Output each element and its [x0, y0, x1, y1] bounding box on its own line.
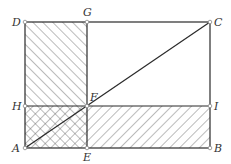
point-c [208, 20, 212, 24]
label-d: D [11, 16, 21, 29]
point-f [85, 104, 89, 108]
point-b [208, 146, 212, 150]
hatch-region-fibe [25, 106, 210, 148]
point-e [85, 146, 89, 150]
label-f: F [89, 91, 98, 104]
label-g: G [83, 6, 92, 19]
geometry-diagram: D G C H F I A E B [0, 0, 231, 164]
label-i: I [213, 100, 219, 113]
point-d [23, 20, 27, 24]
point-h [23, 104, 27, 108]
label-e: E [82, 151, 91, 164]
point-a [23, 146, 27, 150]
point-i [208, 104, 212, 108]
label-c: C [214, 16, 223, 29]
label-h: H [11, 100, 22, 113]
label-b: B [213, 142, 222, 155]
point-g [85, 20, 89, 24]
label-a: A [11, 142, 20, 155]
